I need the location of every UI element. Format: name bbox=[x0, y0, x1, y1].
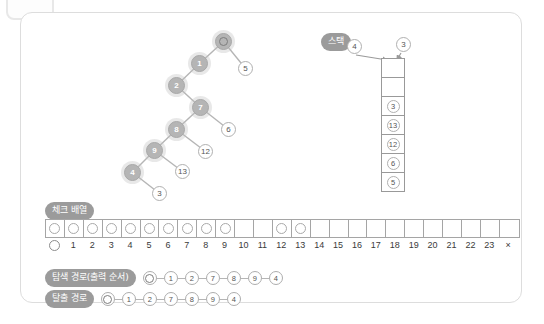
tree-node-12[interactable]: 12 bbox=[198, 144, 213, 159]
check-array-cell[interactable] bbox=[481, 220, 500, 237]
check-array-index-text: 10 bbox=[239, 240, 249, 250]
path-node[interactable]: 7 bbox=[206, 271, 220, 285]
path-node[interactable]: 2 bbox=[143, 292, 157, 306]
tree-node-6[interactable]: 6 bbox=[221, 122, 236, 137]
path-node[interactable]: 1 bbox=[122, 292, 136, 306]
check-array-index-text: × bbox=[506, 240, 511, 250]
tree-node-5[interactable]: 5 bbox=[238, 61, 253, 76]
tree-node-label: 8 bbox=[174, 125, 178, 134]
path-node[interactable]: 9 bbox=[248, 271, 262, 285]
stack-cell[interactable]: 6 bbox=[382, 154, 404, 173]
stack-cell[interactable] bbox=[382, 59, 404, 78]
search-path-label: 탐색 경로(출력 순서) bbox=[45, 269, 136, 287]
path-connector bbox=[136, 299, 143, 300]
path-node[interactable]: 7 bbox=[164, 292, 178, 306]
check-array-index-label: 12 bbox=[272, 238, 291, 252]
path-node[interactable]: 2 bbox=[185, 271, 199, 285]
check-array-cell[interactable] bbox=[273, 220, 292, 237]
path-connector bbox=[157, 278, 164, 279]
check-mark-icon bbox=[68, 223, 79, 234]
path-node[interactable]: 4 bbox=[227, 292, 241, 306]
path-node[interactable] bbox=[143, 271, 157, 285]
check-array-cell[interactable] bbox=[443, 220, 462, 237]
check-array-cell[interactable] bbox=[46, 220, 65, 237]
path-node-label: 2 bbox=[148, 295, 152, 304]
path-node[interactable]: 1 bbox=[164, 271, 178, 285]
check-array-cell[interactable] bbox=[330, 220, 349, 237]
path-node[interactable]: 8 bbox=[185, 292, 199, 306]
tree-node-label: 13 bbox=[178, 167, 187, 176]
check-array-cell[interactable] bbox=[500, 220, 519, 237]
path-node-label: 4 bbox=[232, 295, 236, 304]
tree-node-root[interactable] bbox=[215, 33, 232, 50]
check-mark-icon bbox=[276, 223, 287, 234]
path-node[interactable] bbox=[101, 292, 115, 306]
path-node[interactable]: 8 bbox=[227, 271, 241, 285]
check-array-cell[interactable] bbox=[386, 220, 405, 237]
tree-node-3[interactable]: 3 bbox=[152, 186, 167, 201]
tree-node-label: 4 bbox=[130, 168, 134, 177]
circle-glyph-icon bbox=[145, 274, 154, 283]
check-array-cell[interactable] bbox=[141, 220, 160, 237]
check-array-cell[interactable] bbox=[235, 220, 254, 237]
stack-push-arrows bbox=[321, 31, 431, 71]
check-array-index-text: 14 bbox=[314, 240, 324, 250]
stack-cell[interactable]: 3 bbox=[382, 97, 404, 116]
check-array-index-text: 3 bbox=[109, 240, 114, 250]
path-node[interactable]: 4 bbox=[269, 271, 283, 285]
check-mark-icon bbox=[182, 223, 193, 234]
check-array-cell[interactable] bbox=[405, 220, 424, 237]
check-array-index-text: 7 bbox=[184, 240, 189, 250]
stack-cell[interactable]: 5 bbox=[382, 173, 404, 192]
path-connector bbox=[199, 299, 206, 300]
check-array-index-text: 5 bbox=[146, 240, 151, 250]
check-array-cell[interactable] bbox=[178, 220, 197, 237]
check-array-cell[interactable] bbox=[103, 220, 122, 237]
check-array-cell[interactable] bbox=[349, 220, 368, 237]
check-array-index-label: 9 bbox=[215, 238, 234, 252]
check-array-index-label: 21 bbox=[442, 238, 461, 252]
check-array-label: 체크 배열 bbox=[45, 202, 94, 220]
check-mark-icon bbox=[49, 223, 60, 234]
check-array-cell[interactable] bbox=[159, 220, 178, 237]
check-array-index-text: 16 bbox=[352, 240, 362, 250]
check-array-index-text: 21 bbox=[446, 240, 456, 250]
check-mark-icon bbox=[87, 223, 98, 234]
stack-cell[interactable]: 12 bbox=[382, 135, 404, 154]
tree-node-1[interactable]: 1 bbox=[191, 55, 208, 72]
check-array-cell[interactable] bbox=[197, 220, 216, 237]
tree-node-label: 5 bbox=[243, 64, 247, 73]
check-array-cell[interactable] bbox=[311, 220, 330, 237]
check-array-index-label bbox=[45, 238, 64, 252]
tree-node-9[interactable]: 9 bbox=[146, 142, 163, 159]
path-node[interactable]: 9 bbox=[206, 292, 220, 306]
check-array-cell[interactable] bbox=[65, 220, 84, 237]
check-array-cell[interactable] bbox=[216, 220, 235, 237]
stack-incoming-node-4[interactable]: 4 bbox=[347, 39, 362, 54]
stack-cell-value: 13 bbox=[387, 119, 400, 132]
stack-incoming-node-3[interactable]: 3 bbox=[396, 37, 411, 52]
stack-incoming-node-label: 3 bbox=[401, 40, 405, 49]
tree-node-4[interactable]: 4 bbox=[124, 164, 141, 181]
check-array-index-label: 11 bbox=[253, 238, 272, 252]
stack-cell-value: 6 bbox=[387, 157, 400, 170]
check-array-cell[interactable] bbox=[424, 220, 443, 237]
check-array-cell[interactable] bbox=[84, 220, 103, 237]
stack-cell[interactable]: 13 bbox=[382, 116, 404, 135]
stack-cell[interactable] bbox=[382, 78, 404, 97]
check-array-cell[interactable] bbox=[462, 220, 481, 237]
check-array-index-text: 9 bbox=[222, 240, 227, 250]
tree-node-7[interactable]: 7 bbox=[192, 99, 209, 116]
check-array-index-text: 15 bbox=[333, 240, 343, 250]
tree-node-8[interactable]: 8 bbox=[168, 121, 185, 138]
tree-node-13[interactable]: 13 bbox=[175, 164, 190, 179]
tree-node-2[interactable]: 2 bbox=[168, 77, 185, 94]
check-array-cell[interactable] bbox=[292, 220, 311, 237]
check-array-index-label: 15 bbox=[329, 238, 348, 252]
check-array-cell[interactable] bbox=[254, 220, 273, 237]
check-array-cell[interactable] bbox=[122, 220, 141, 237]
check-array-cell[interactable] bbox=[367, 220, 386, 237]
check-array-index-label: 5 bbox=[140, 238, 159, 252]
path-connector bbox=[115, 299, 122, 300]
check-array-index-label: 6 bbox=[158, 238, 177, 252]
